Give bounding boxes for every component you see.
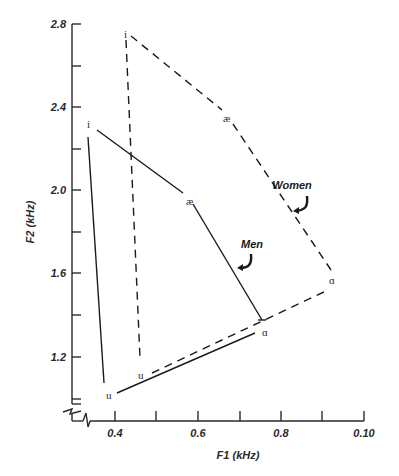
y-axis-title: F2 (kHz) xyxy=(24,200,36,243)
women-vowel-i: i xyxy=(124,28,127,40)
y-tick-label: 1.6 xyxy=(51,267,67,279)
formant-chart: 2.8 2.4 2.0 1.6 1.2 0.4 0.6 0.8 0.10 F1 … xyxy=(0,0,399,476)
y-tick-label: 1.2 xyxy=(51,351,66,363)
men-series xyxy=(88,130,266,393)
x-tick-label: 0.10 xyxy=(353,427,375,439)
men-vowel-i: i xyxy=(87,118,90,130)
x-tick-label: 0.6 xyxy=(190,427,206,439)
x-axis-title: F1 (kHz) xyxy=(217,449,260,461)
y-tick-label: 2.8 xyxy=(50,18,67,30)
women-series xyxy=(126,36,331,373)
x-tick-label: 0.8 xyxy=(273,427,289,439)
women-vowel-u: u xyxy=(138,369,144,381)
women-vowel-ae: æ xyxy=(223,112,230,124)
women-label: Women xyxy=(272,179,312,191)
y-tick-label: 2.0 xyxy=(50,184,67,196)
men-vowel-u: u xyxy=(106,389,112,401)
men-vowel-ae: æ xyxy=(186,195,193,207)
x-tick-label: 0.4 xyxy=(107,427,122,439)
men-label: Men xyxy=(241,238,263,250)
women-vowel-a: ɑ xyxy=(329,274,335,286)
men-vowel-a: ɑ xyxy=(262,326,268,338)
y-tick-label: 2.4 xyxy=(50,101,66,113)
x-axis xyxy=(72,411,364,427)
